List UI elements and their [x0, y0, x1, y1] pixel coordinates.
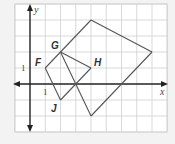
point-label-g: G [51, 40, 59, 51]
point-label-h: H [94, 57, 102, 68]
point-label-f: F [35, 57, 42, 68]
coordinate-plane-figure: y x 1 1 F G H J [0, 0, 175, 144]
point-label-j: J [51, 103, 57, 114]
x-axis-label: x [159, 86, 165, 97]
x-tick-label-1: 1 [43, 87, 48, 97]
y-tick-label-1: 1 [21, 63, 26, 73]
y-axis-label: y [33, 4, 39, 15]
